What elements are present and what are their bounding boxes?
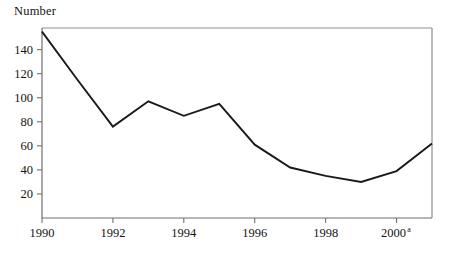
x-tick-label: 1996 (242, 226, 267, 240)
x-axis-ticks: 199019921994199619982000a (30, 218, 412, 240)
y-tick-label: 60 (21, 139, 34, 153)
x-tick-label: 1990 (30, 226, 55, 240)
data-series-line (42, 32, 432, 182)
x-tick-label: 1994 (171, 226, 197, 240)
y-tick-label: 20 (21, 187, 34, 201)
x-tick-label: 2000 (381, 226, 406, 240)
x-tick-label: 1992 (100, 226, 125, 240)
y-tick-label: 40 (21, 163, 34, 177)
y-tick-label: 100 (14, 91, 33, 105)
plot-area-svg: 20406080100120140 1990199219941996199820… (0, 0, 449, 255)
x-tick-label: 1998 (313, 226, 338, 240)
y-tick-label: 120 (14, 67, 33, 81)
line-chart: Number 20406080100120140 199019921994199… (0, 0, 449, 255)
y-tick-label: 140 (14, 43, 33, 57)
x-tick-superscript: a (407, 225, 411, 234)
y-axis-ticks: 20406080100120140 (14, 43, 42, 201)
y-tick-label: 80 (21, 115, 34, 129)
